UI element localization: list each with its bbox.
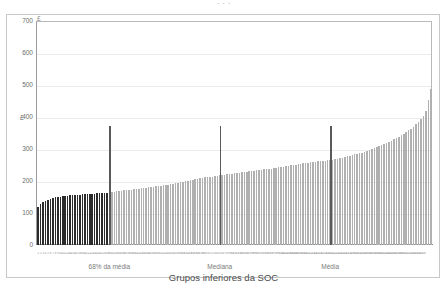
y-axis-currency-label: £ <box>20 114 24 121</box>
bar <box>325 161 327 245</box>
bar <box>347 156 349 245</box>
bar <box>378 146 380 245</box>
bar <box>84 194 86 245</box>
bar <box>141 188 143 245</box>
bar <box>398 137 400 245</box>
bar <box>366 151 368 245</box>
bar <box>99 193 101 245</box>
bar <box>403 134 405 245</box>
bar <box>391 141 393 245</box>
bar <box>150 187 152 245</box>
bar <box>307 163 309 245</box>
bar <box>344 157 346 245</box>
bar <box>177 183 179 245</box>
bar <box>275 168 277 245</box>
y-tick-600: 600 <box>3 50 33 57</box>
bar <box>217 176 219 245</box>
bar <box>192 180 194 245</box>
bar <box>401 135 403 245</box>
bar-series <box>37 21 432 245</box>
bar <box>290 165 292 245</box>
bar <box>342 158 344 245</box>
bar <box>74 195 76 245</box>
bar <box>79 195 81 245</box>
bar <box>271 169 273 245</box>
bar <box>268 169 270 245</box>
bar <box>111 192 113 245</box>
bar <box>261 170 263 245</box>
bar <box>42 202 44 245</box>
bar <box>396 138 398 245</box>
bar <box>285 166 287 245</box>
bar <box>418 122 420 245</box>
bar <box>354 154 356 245</box>
bar <box>420 119 422 245</box>
bar <box>361 153 363 245</box>
bar <box>160 186 162 245</box>
marker-label-68%-da-média: 68% da média <box>89 263 131 270</box>
bar <box>337 159 339 245</box>
bar <box>182 182 184 245</box>
bar <box>229 174 231 245</box>
bar <box>334 159 336 245</box>
bar <box>236 173 238 245</box>
bar <box>155 186 157 245</box>
bar <box>302 163 304 245</box>
bar <box>143 188 145 245</box>
bar <box>207 177 209 245</box>
bar <box>72 195 74 245</box>
bar <box>138 189 140 245</box>
bar <box>45 201 47 245</box>
bar <box>187 181 189 245</box>
x-tick-label: 1 <box>37 252 38 255</box>
bar <box>248 171 250 245</box>
bar <box>52 198 54 245</box>
bar <box>197 179 199 245</box>
bar <box>349 156 351 245</box>
bar <box>332 160 334 245</box>
bar <box>175 183 177 245</box>
bar <box>244 172 246 245</box>
bar <box>408 130 410 245</box>
x-tick-label: 3 <box>42 252 43 255</box>
bar <box>121 191 123 245</box>
bar <box>322 161 324 245</box>
bar <box>136 189 138 245</box>
bar <box>388 142 390 245</box>
bar <box>190 180 192 245</box>
bar <box>300 164 302 245</box>
bar <box>214 176 216 245</box>
bar <box>425 111 427 245</box>
x-tick-label: 158 <box>421 252 425 255</box>
bar <box>158 186 160 245</box>
bar <box>310 162 312 245</box>
bar <box>145 188 147 245</box>
bar <box>153 187 155 245</box>
y-axis-tick-labels: 7006005004003002001000 <box>0 0 33 260</box>
bar <box>423 116 425 245</box>
bar <box>209 177 211 245</box>
bar <box>246 172 248 245</box>
bar <box>116 191 118 245</box>
bar <box>393 139 395 245</box>
y-tick-500: 500 <box>3 82 33 89</box>
marker-label-média: Média <box>321 263 339 270</box>
marker-line-mediana <box>220 126 221 245</box>
bar <box>293 165 295 245</box>
bar <box>280 167 282 245</box>
bar <box>234 173 236 245</box>
bar <box>77 195 79 245</box>
bar <box>133 189 135 245</box>
x-tick-label: 7 <box>52 252 53 255</box>
x-tick-label: 2 <box>40 252 41 255</box>
bar <box>69 195 71 245</box>
bar <box>106 193 108 245</box>
bar <box>413 127 415 245</box>
bar <box>55 197 57 245</box>
bar <box>170 184 172 245</box>
bar <box>128 190 130 245</box>
bar <box>167 185 169 245</box>
bar <box>199 178 201 245</box>
bar <box>114 192 116 245</box>
bar <box>224 175 226 245</box>
